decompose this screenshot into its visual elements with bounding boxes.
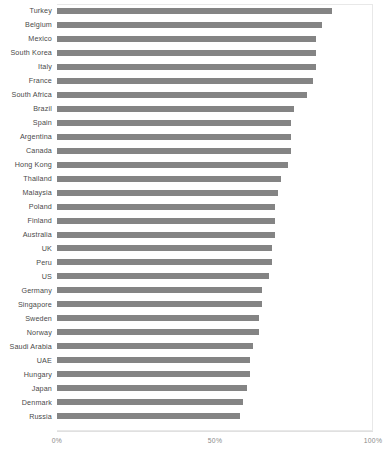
- bar-track: [57, 353, 373, 367]
- bar-row: Japan: [0, 381, 392, 395]
- bar-category-label: Malaysia: [0, 188, 52, 197]
- bar-track: [57, 116, 373, 130]
- bar-track: [57, 4, 373, 18]
- x-axis-tick-label: 100%: [364, 436, 383, 445]
- bar: [57, 162, 288, 168]
- bar-category-label: UAE: [0, 356, 52, 365]
- bar-row: Poland: [0, 200, 392, 214]
- bar: [57, 22, 322, 28]
- bar-track: [57, 409, 373, 423]
- bar: [57, 120, 291, 126]
- bar-track: [57, 255, 373, 269]
- bar-category-label: Argentina: [0, 132, 52, 141]
- bar-track: [57, 46, 373, 60]
- bar-track: [57, 311, 373, 325]
- bar-row: Malaysia: [0, 186, 392, 200]
- bar-row: Sweden: [0, 311, 392, 325]
- bar: [57, 413, 240, 419]
- bar-category-label: Finland: [0, 216, 52, 225]
- bar-row: Thailand: [0, 172, 392, 186]
- bar: [57, 385, 247, 391]
- bar: [57, 399, 243, 405]
- bar-track: [57, 18, 373, 32]
- x-axis-tick-label: 50%: [208, 436, 223, 445]
- bar-row: Belgium: [0, 18, 392, 32]
- bar-row: Peru: [0, 255, 392, 269]
- bar-category-label: Brazil: [0, 104, 52, 113]
- bar: [57, 78, 313, 84]
- bar-category-label: Belgium: [0, 20, 52, 29]
- bar-category-label: Turkey: [0, 6, 52, 15]
- bar-category-label: Peru: [0, 258, 52, 267]
- bar: [57, 371, 250, 377]
- bar-category-label: South Korea: [0, 48, 52, 57]
- bar-track: [57, 158, 373, 172]
- bar-category-label: UK: [0, 244, 52, 253]
- bar-row: Argentina: [0, 130, 392, 144]
- bar-row: UK: [0, 241, 392, 255]
- bar-category-label: South Africa: [0, 90, 52, 99]
- bar-category-label: Russia: [0, 412, 52, 421]
- bar: [57, 245, 272, 251]
- bar: [57, 190, 278, 196]
- bar-row: Germany: [0, 283, 392, 297]
- bar-row: Brazil: [0, 102, 392, 116]
- bar-category-label: Thailand: [0, 174, 52, 183]
- bar-category-label: Italy: [0, 62, 52, 71]
- bar-track: [57, 102, 373, 116]
- bar-track: [57, 200, 373, 214]
- bar-category-label: Saudi Arabia: [0, 342, 52, 351]
- bar-row: Hungary: [0, 367, 392, 381]
- bar-track: [57, 269, 373, 283]
- bar-track: [57, 297, 373, 311]
- bar: [57, 176, 281, 182]
- bar-category-label: Japan: [0, 384, 52, 393]
- bar-category-label: Sweden: [0, 314, 52, 323]
- bar-category-label: Poland: [0, 202, 52, 211]
- bar-track: [57, 32, 373, 46]
- bar: [57, 329, 259, 335]
- bar-rows: TurkeyBelgiumMexicoSouth KoreaItalyFranc…: [0, 4, 392, 423]
- bar: [57, 50, 316, 56]
- bar-category-label: Singapore: [0, 300, 52, 309]
- bar: [57, 204, 275, 210]
- bar-row: Canada: [0, 144, 392, 158]
- bar-row: Mexico: [0, 32, 392, 46]
- bar-category-label: Germany: [0, 286, 52, 295]
- bar-row: Spain: [0, 116, 392, 130]
- bar: [57, 343, 253, 349]
- bar: [57, 64, 316, 70]
- bar-row: Russia: [0, 409, 392, 423]
- bar-row: Hong Kong: [0, 158, 392, 172]
- bar: [57, 301, 262, 307]
- bar-row: US: [0, 269, 392, 283]
- x-axis-tick-label: 0%: [52, 436, 62, 445]
- bar-track: [57, 214, 373, 228]
- bar-category-label: Denmark: [0, 398, 52, 407]
- bar-category-label: France: [0, 76, 52, 85]
- bar-track: [57, 186, 373, 200]
- bar: [57, 92, 307, 98]
- bar: [57, 357, 250, 363]
- bar: [57, 36, 316, 42]
- bar-category-label: Spain: [0, 118, 52, 127]
- bar: [57, 218, 275, 224]
- bar-track: [57, 339, 373, 353]
- bar-row: Turkey: [0, 4, 392, 18]
- bar-row: Saudi Arabia: [0, 339, 392, 353]
- bar-track: [57, 241, 373, 255]
- bar-row: France: [0, 74, 392, 88]
- bar-track: [57, 367, 373, 381]
- bar-row: Italy: [0, 60, 392, 74]
- bar-track: [57, 325, 373, 339]
- bar-track: [57, 283, 373, 297]
- bar: [57, 232, 275, 238]
- bar-row: Denmark: [0, 395, 392, 409]
- bar-track: [57, 395, 373, 409]
- x-axis: 0%50%100%: [0, 431, 392, 453]
- bar-row: Australia: [0, 228, 392, 242]
- bar-row: South Africa: [0, 88, 392, 102]
- bar: [57, 273, 269, 279]
- bar-track: [57, 88, 373, 102]
- bar-category-label: Canada: [0, 146, 52, 155]
